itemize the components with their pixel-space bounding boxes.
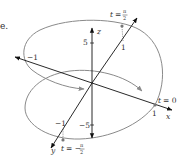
svg-text:t: t bbox=[158, 96, 162, 105]
z-tick-pos-label: 5 bbox=[83, 38, 88, 47]
x-tick-pos-label: 1 bbox=[152, 109, 157, 118]
label-t-neg-half-pi: t = − π 2 bbox=[61, 142, 85, 155]
svg-text:=: = bbox=[115, 10, 121, 19]
point-t-zero bbox=[153, 103, 156, 106]
svg-text:t: t bbox=[110, 10, 114, 19]
parametric-curve-diagram: e. z 5 −5 x 1 −1 y 1 −1 t = 0 t = π 2 t bbox=[0, 0, 188, 161]
svg-text:= 0: = 0 bbox=[163, 96, 177, 105]
x-tick-neg-label: −1 bbox=[27, 53, 38, 62]
z-tick-neg-label: −5 bbox=[79, 121, 90, 130]
curve-upper-lobe bbox=[24, 20, 163, 105]
point-t-neg-half-pi bbox=[61, 138, 64, 141]
svg-text:= −: = − bbox=[66, 144, 81, 153]
z-axis-label: z bbox=[96, 27, 101, 36]
caption-fragment: e. bbox=[0, 21, 8, 31]
svg-text:2: 2 bbox=[80, 149, 83, 155]
label-t-zero: t = 0 bbox=[158, 96, 177, 105]
svg-text:t: t bbox=[61, 144, 65, 153]
point-t-half-pi bbox=[120, 24, 123, 27]
svg-text:π: π bbox=[123, 8, 127, 14]
y-tick-neg-label: −1 bbox=[55, 119, 66, 128]
svg-text:2: 2 bbox=[123, 15, 126, 21]
label-t-half-pi: t = π 2 bbox=[110, 8, 128, 21]
y-tick-pos-label: 1 bbox=[121, 43, 126, 52]
y-axis-label: y bbox=[50, 146, 56, 155]
svg-text:π: π bbox=[80, 142, 84, 148]
x-axis-label: x bbox=[166, 112, 171, 121]
